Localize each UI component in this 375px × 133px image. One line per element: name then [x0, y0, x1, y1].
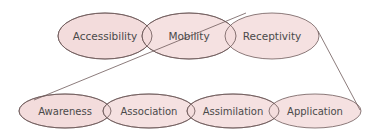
label-association: Association — [121, 106, 178, 117]
label-application: Application — [287, 106, 343, 117]
label-awareness: Awareness — [38, 106, 92, 117]
label-accessibility: Accessibility — [73, 30, 138, 42]
label-assimilation: Assimilation — [203, 106, 264, 117]
label-mobility: Mobility — [168, 30, 209, 42]
label-receptivity: Receptivity — [243, 30, 302, 42]
diagram-canvas: Accessibility Mobility Receptivity Aware… — [0, 0, 375, 133]
